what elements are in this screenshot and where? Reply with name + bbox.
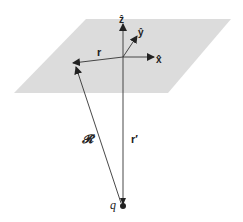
y-hat-label: ŷ bbox=[138, 27, 144, 38]
diagram-canvas: ẑ ŷ x̂ r 𝓡 r′ q bbox=[0, 0, 243, 222]
script-r-label: 𝓡 bbox=[81, 132, 96, 146]
z-hat-label: ẑ bbox=[119, 14, 124, 25]
charge-label: q bbox=[110, 198, 116, 212]
x-hat-label: x̂ bbox=[156, 54, 162, 65]
r-label: r bbox=[97, 46, 102, 58]
r-prime-label: r′ bbox=[131, 133, 138, 145]
plane bbox=[14, 19, 231, 93]
diagram-svg: ẑ ŷ x̂ r 𝓡 r′ q bbox=[0, 0, 243, 222]
point-charge bbox=[120, 203, 126, 209]
